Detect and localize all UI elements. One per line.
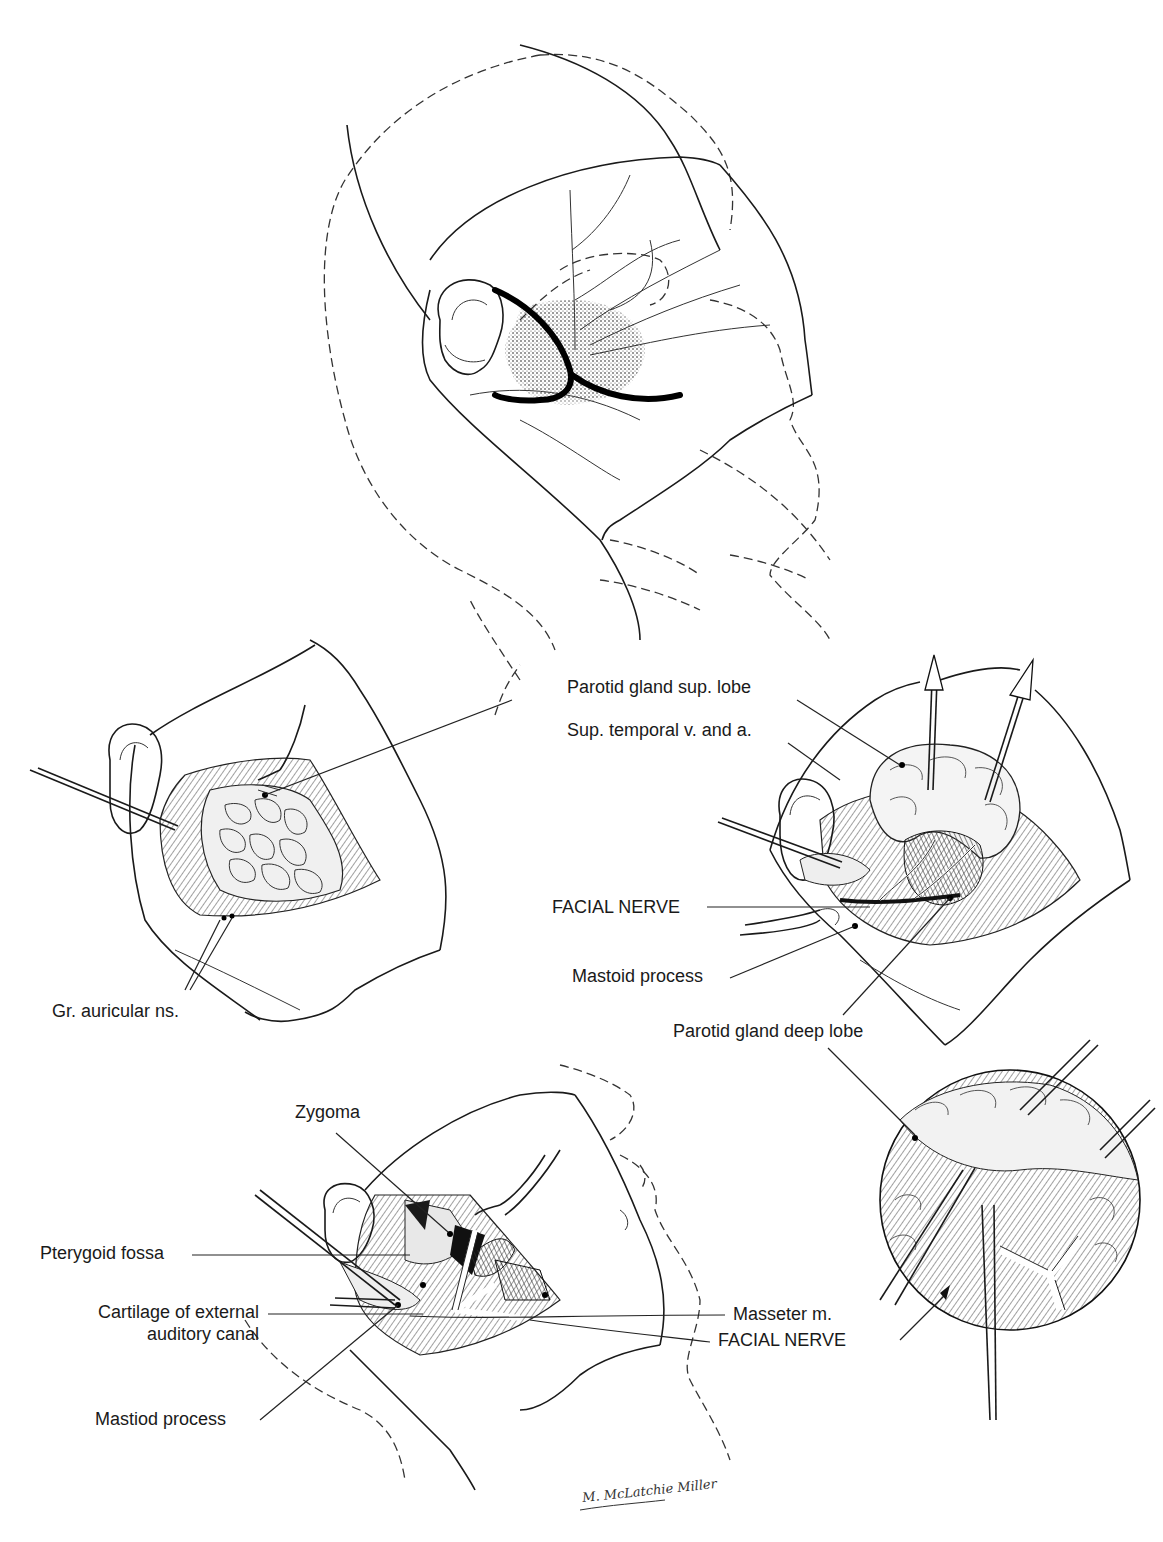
panel-middle-left-exposure bbox=[30, 640, 520, 1021]
label-parotid-sup-lobe: Parotid gland sup. lobe bbox=[567, 677, 751, 698]
label-cartilage-line2: auditory canal bbox=[74, 1324, 259, 1345]
label-masseter: Masseter m. bbox=[733, 1304, 832, 1325]
label-facial-nerve-lower: FACIAL NERVE bbox=[718, 1330, 846, 1351]
label-pterygoid-fossa: Pterygoid fossa bbox=[40, 1243, 164, 1264]
label-facial-nerve-upper: FACIAL NERVE bbox=[552, 897, 680, 918]
label-mastoid-process-lower: Mastiod process bbox=[95, 1409, 226, 1430]
label-mastoid-process-upper: Mastoid process bbox=[572, 966, 703, 987]
label-parotid-deep-lobe: Parotid gland deep lobe bbox=[673, 1021, 863, 1042]
panel-lower-left-dissection bbox=[192, 1065, 730, 1490]
panel-top-incision bbox=[324, 45, 830, 680]
label-gr-auricular: Gr. auricular ns. bbox=[52, 1001, 179, 1022]
label-cartilage-line1: Cartilage of external bbox=[74, 1302, 259, 1323]
label-zygoma: Zygoma bbox=[295, 1102, 360, 1123]
panel-lower-right-inset bbox=[828, 1040, 1155, 1420]
label-sup-temporal: Sup. temporal v. and a. bbox=[567, 720, 752, 741]
panel-middle-right-retraction bbox=[707, 655, 1130, 1045]
